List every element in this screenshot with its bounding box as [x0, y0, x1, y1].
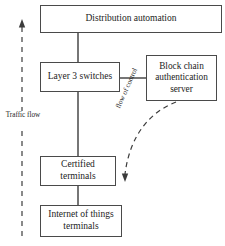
node-certified-terminals-label: Certified terminals	[57, 159, 98, 182]
node-blockchain-authentication-server[interactable]: Block chain authentication server	[146, 55, 217, 101]
node-internet-of-things-terminals-label: Internet of things terminals	[45, 209, 116, 232]
flow-of-control-arrowhead	[122, 174, 128, 183]
node-distribution-automation-label: Distribution automation	[82, 13, 179, 25]
node-layer3-switches[interactable]: Layer 3 switches	[40, 62, 120, 92]
node-blockchain-authentication-server-label: Block chain authentication server	[152, 61, 211, 95]
node-internet-of-things-terminals[interactable]: Internet of things terminals	[40, 205, 122, 237]
traffic-flow-arrowhead	[19, 19, 25, 28]
diagram-canvas: Distribution automation Layer 3 switches…	[0, 0, 225, 246]
traffic-flow-label: Traffic flow	[0, 111, 46, 119]
edge-flow-of-control	[125, 102, 176, 174]
node-distribution-automation[interactable]: Distribution automation	[40, 5, 222, 33]
node-layer3-switches-label: Layer 3 switches	[45, 71, 115, 83]
node-certified-terminals[interactable]: Certified terminals	[40, 156, 116, 186]
